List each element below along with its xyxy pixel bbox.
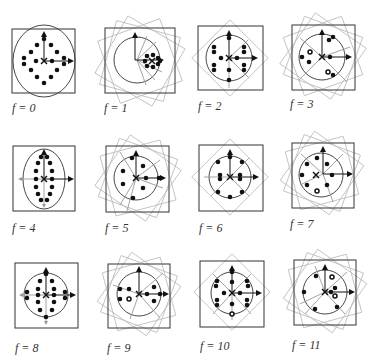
panel-label-f11: f = 11 bbox=[292, 338, 321, 353]
diagram-f11 bbox=[0, 0, 380, 364]
